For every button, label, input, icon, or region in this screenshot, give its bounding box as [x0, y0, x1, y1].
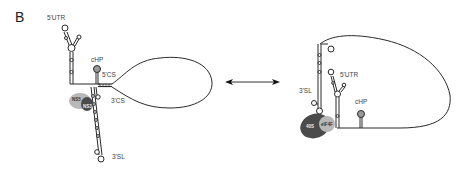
- equilibrium-arrow: [225, 79, 280, 85]
- chp-label-right: cHP: [355, 99, 367, 106]
- diagram-stage: B: [0, 0, 465, 169]
- utr5-label-left: 5'UTR: [47, 15, 65, 22]
- sl3-label-right: 3'SL: [299, 88, 312, 95]
- chp-label-left: cHP: [91, 57, 103, 64]
- eif4f-label: eIF4F: [321, 122, 333, 127]
- ns5-ns3-complex: NS5 NS3: [69, 93, 93, 111]
- utr5-label-right: 5'UTR: [340, 72, 358, 79]
- ribosome-40s-eif4f-complex: 40S eIF4F: [297, 110, 335, 143]
- cs3-label: 3'CS: [111, 98, 125, 105]
- right-conformation: [312, 36, 451, 128]
- diagram-svg: NS5 NS3: [0, 0, 465, 169]
- left-conformation: [62, 25, 212, 162]
- chp-hairpin-left: [94, 66, 101, 85]
- chp-hairpin-right: [358, 111, 365, 129]
- cs-duplex: [98, 84, 112, 87]
- cs5-label: 5'CS: [102, 72, 116, 79]
- sl3-stem-right: [312, 44, 335, 114]
- ns5-label: NS5: [72, 97, 81, 102]
- sl3-label-left: 3'SL: [112, 154, 125, 161]
- utr5-stemloop-left: [62, 25, 81, 84]
- genome-loop-left: [112, 57, 212, 108]
- genome-loop-right: [320, 36, 450, 128]
- ns3-label: NS3: [83, 104, 92, 109]
- s40-label: 40S: [306, 124, 314, 129]
